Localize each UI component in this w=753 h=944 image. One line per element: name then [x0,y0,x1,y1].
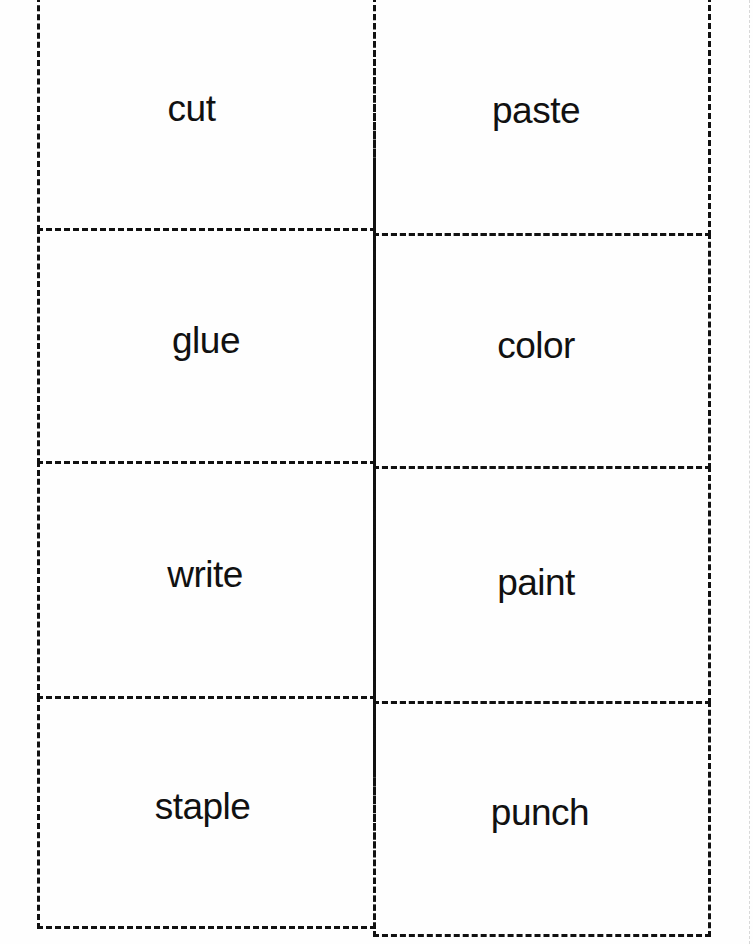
card-cut: cut [37,0,376,231]
card-paste: paste [373,0,711,236]
card-label: staple [155,786,251,828]
card-label: cut [168,88,216,130]
page-edge [749,0,750,944]
card-color: color [373,233,711,469]
card-paint: paint [373,466,711,704]
card-label: glue [172,320,240,362]
card-punch: punch [373,701,711,937]
card-label: paint [497,562,575,604]
worksheet-page: cut paste glue color write paint staple … [0,0,753,944]
card-staple: staple [37,696,376,929]
card-label: paste [492,90,580,132]
card-grid: cut paste glue color write paint staple … [37,0,708,929]
card-glue: glue [37,228,376,464]
card-label: write [167,554,243,596]
card-label: punch [491,792,589,834]
card-label: color [497,325,575,367]
card-write: write [37,461,376,699]
